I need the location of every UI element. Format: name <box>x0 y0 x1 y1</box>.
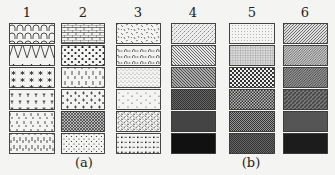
swatch-2-4 <box>62 90 105 110</box>
column-label-4: 4 <box>183 6 203 19</box>
swatch-1-6 <box>10 134 55 154</box>
swatch-5-2 <box>230 46 275 66</box>
swatch-5-5 <box>230 112 275 132</box>
swatch-4-4 <box>172 90 216 110</box>
swatch-5-3 <box>230 68 275 88</box>
swatch-4-3 <box>172 68 216 88</box>
swatch-1-2 <box>10 46 55 66</box>
pattern-legend-figure: 1 2 3 4 5 6 (a) (b) <box>0 0 335 175</box>
swatch-4-5 <box>172 112 216 132</box>
swatch-1-1 <box>10 24 55 44</box>
swatch-1-5 <box>10 112 55 132</box>
swatch-4-2 <box>172 46 216 66</box>
column-label-3: 3 <box>128 6 148 19</box>
caption-a: (a) <box>64 156 104 169</box>
swatch-5-4 <box>230 90 275 110</box>
caption-b: (b) <box>231 156 271 169</box>
swatch-1-3 <box>10 68 55 88</box>
swatch-4-1 <box>172 24 216 44</box>
swatch-3-1 <box>117 24 161 44</box>
column-label-2: 2 <box>73 6 93 19</box>
swatch-2-6 <box>62 134 105 154</box>
swatch-2-3 <box>62 68 105 88</box>
swatch-2-5 <box>62 112 105 132</box>
column-label-5: 5 <box>242 6 262 19</box>
swatch-3-6 <box>117 134 161 154</box>
swatch-3-3 <box>117 68 161 88</box>
swatch-5-1 <box>230 24 275 44</box>
swatch-6-1 <box>284 24 328 44</box>
swatch-1-4 <box>10 90 55 110</box>
swatch-6-5 <box>284 112 328 132</box>
pattern-swatch-grid <box>0 0 335 175</box>
column-label-6: 6 <box>295 6 315 19</box>
swatch-3-5 <box>117 112 161 132</box>
swatch-2-1 <box>62 24 105 44</box>
column-label-1: 1 <box>17 6 37 19</box>
swatch-2-2 <box>62 46 105 66</box>
swatch-6-2 <box>284 46 328 66</box>
swatch-4-6 <box>172 134 216 154</box>
swatch-5-6 <box>230 134 275 154</box>
swatch-6-4 <box>284 90 328 110</box>
swatch-3-4 <box>117 90 161 110</box>
swatch-6-3 <box>284 68 328 88</box>
swatch-6-6 <box>284 134 328 154</box>
swatch-3-2 <box>117 46 161 66</box>
